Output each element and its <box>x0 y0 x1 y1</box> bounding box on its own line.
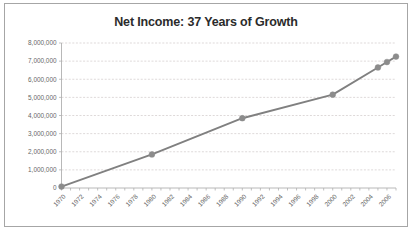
x-tick-label: 1980 <box>142 192 157 207</box>
x-tick-label: 1996 <box>287 192 302 207</box>
x-tick-label: 1994 <box>269 192 284 207</box>
data-point-marker <box>149 152 155 158</box>
x-tick-label: 1986 <box>196 192 211 207</box>
y-tick-label: 0 <box>53 184 57 191</box>
data-point-marker <box>393 54 399 60</box>
x-tick-label: 1990 <box>233 192 248 207</box>
x-tick-label: 1988 <box>214 192 229 207</box>
x-tick-label: 2000 <box>323 192 338 207</box>
x-tick-label: 1976 <box>106 192 121 207</box>
chart-plot-area: 01,000,0002,000,0003,000,0004,000,0005,0… <box>0 0 414 233</box>
x-tick-label: 1972 <box>70 192 85 207</box>
y-tick-label: 6,000,000 <box>28 76 57 83</box>
y-tick-label: 4,000,000 <box>28 112 57 119</box>
x-tick-label: 2006 <box>377 192 392 207</box>
x-tick-label: 1978 <box>124 192 139 207</box>
data-point-marker <box>330 92 336 98</box>
y-tick-label: 7,000,000 <box>28 57 57 64</box>
x-tick-label: 1992 <box>251 192 266 207</box>
series-line-net-income <box>62 57 397 187</box>
x-tick-label: 1974 <box>88 192 103 207</box>
y-tick-label: 8,000,000 <box>28 39 57 46</box>
y-tick-label: 5,000,000 <box>28 94 57 101</box>
y-tick-label: 2,000,000 <box>28 148 57 155</box>
gridlines-group <box>62 43 397 170</box>
data-point-marker <box>375 65 381 71</box>
y-tick-label: 3,000,000 <box>28 130 57 137</box>
data-point-marker <box>239 115 245 121</box>
x-tick-label: 1970 <box>52 192 67 207</box>
x-tick-label: 2004 <box>359 192 374 207</box>
x-tick-label: 1984 <box>178 192 193 207</box>
x-tick-label: 1998 <box>305 192 320 207</box>
x-axis-tick-labels: 1970197219741976197819801982198419861988… <box>52 192 393 207</box>
x-tick-label: 2002 <box>341 192 356 207</box>
data-point-marker <box>384 59 390 65</box>
x-tick-label: 1982 <box>160 192 175 207</box>
y-axis-tick-labels: 01,000,0002,000,0003,000,0004,000,0005,0… <box>28 39 57 191</box>
y-tick-label: 1,000,000 <box>28 166 57 173</box>
data-point-marker <box>59 184 65 190</box>
